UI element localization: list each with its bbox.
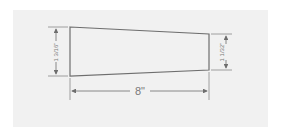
trapezoid-outline <box>70 27 209 76</box>
right-height-label: 1 1/32" <box>219 43 225 62</box>
length-label: 8" <box>135 85 145 97</box>
tapered-plate-drawing: 1 3/16" 1 1/32" 8" <box>0 0 281 137</box>
left-height-label: 1 3/16" <box>53 43 59 62</box>
